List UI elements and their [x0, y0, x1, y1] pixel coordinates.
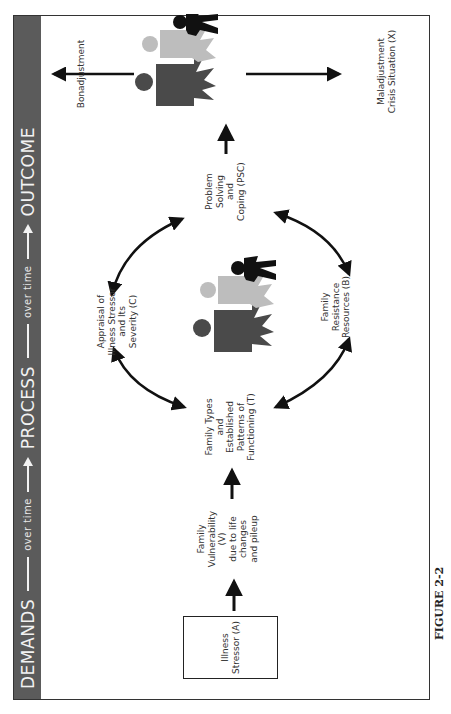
line: Family — [196, 504, 207, 574]
line: Bonadjustment — [76, 29, 87, 119]
line: changes — [238, 504, 249, 574]
line: Family — [320, 267, 331, 347]
line: Functioning (T) — [246, 387, 257, 467]
node-illness-stressor: Illness Stressor (A) — [183, 616, 278, 679]
node-problem-solving-coping: Problem Solving and Coping (PSC) — [204, 154, 246, 229]
line: and — [215, 387, 226, 467]
node-family-types: Family Types and Established Patterns of… — [204, 387, 257, 467]
diagram-frame: DEMANDS over time PROCESS over time OUTC… — [13, 15, 430, 700]
line: Established — [225, 387, 236, 467]
line: Family Types — [204, 387, 215, 467]
figure-caption: FIGURE 2-2 — [433, 567, 446, 640]
line: Crisis Situation (X) — [387, 19, 398, 124]
line: (V) — [217, 504, 228, 574]
line: Solving — [215, 154, 226, 229]
line: Vulnerability — [207, 504, 218, 574]
arc-t-b — [276, 339, 349, 407]
line: Resistance — [331, 267, 342, 347]
line: Resources (B) — [341, 267, 352, 347]
node-resources: Family Resistance Resources (B) — [320, 267, 352, 347]
center-family-icon — [193, 256, 276, 352]
arc-b-psc — [276, 213, 349, 274]
line: Maladjustment — [376, 19, 387, 124]
line: and Its — [117, 279, 128, 364]
node-bonadjustment: Bonadjustment — [76, 29, 87, 119]
line: and pileup — [249, 504, 260, 574]
node-appraisal: Appraisal of Illness Stressor and Its Se… — [96, 279, 138, 364]
line: Patterns of — [236, 387, 247, 467]
outcome-family-icon — [135, 14, 218, 106]
line: Coping (PSC) — [236, 154, 247, 229]
node-vulnerability: Family Vulnerability (V) due to life cha… — [196, 504, 259, 574]
line: Illness Stressor — [107, 279, 118, 364]
node-maladjustment: Maladjustment Crisis Situation (X) — [376, 19, 397, 124]
line: Severity (C) — [128, 279, 139, 364]
line: Problem — [204, 154, 215, 229]
line: due to life — [228, 504, 239, 574]
line: Appraisal of — [96, 279, 107, 364]
line: and — [225, 154, 236, 229]
stressor-label: Illness Stressor (A) — [220, 620, 241, 675]
